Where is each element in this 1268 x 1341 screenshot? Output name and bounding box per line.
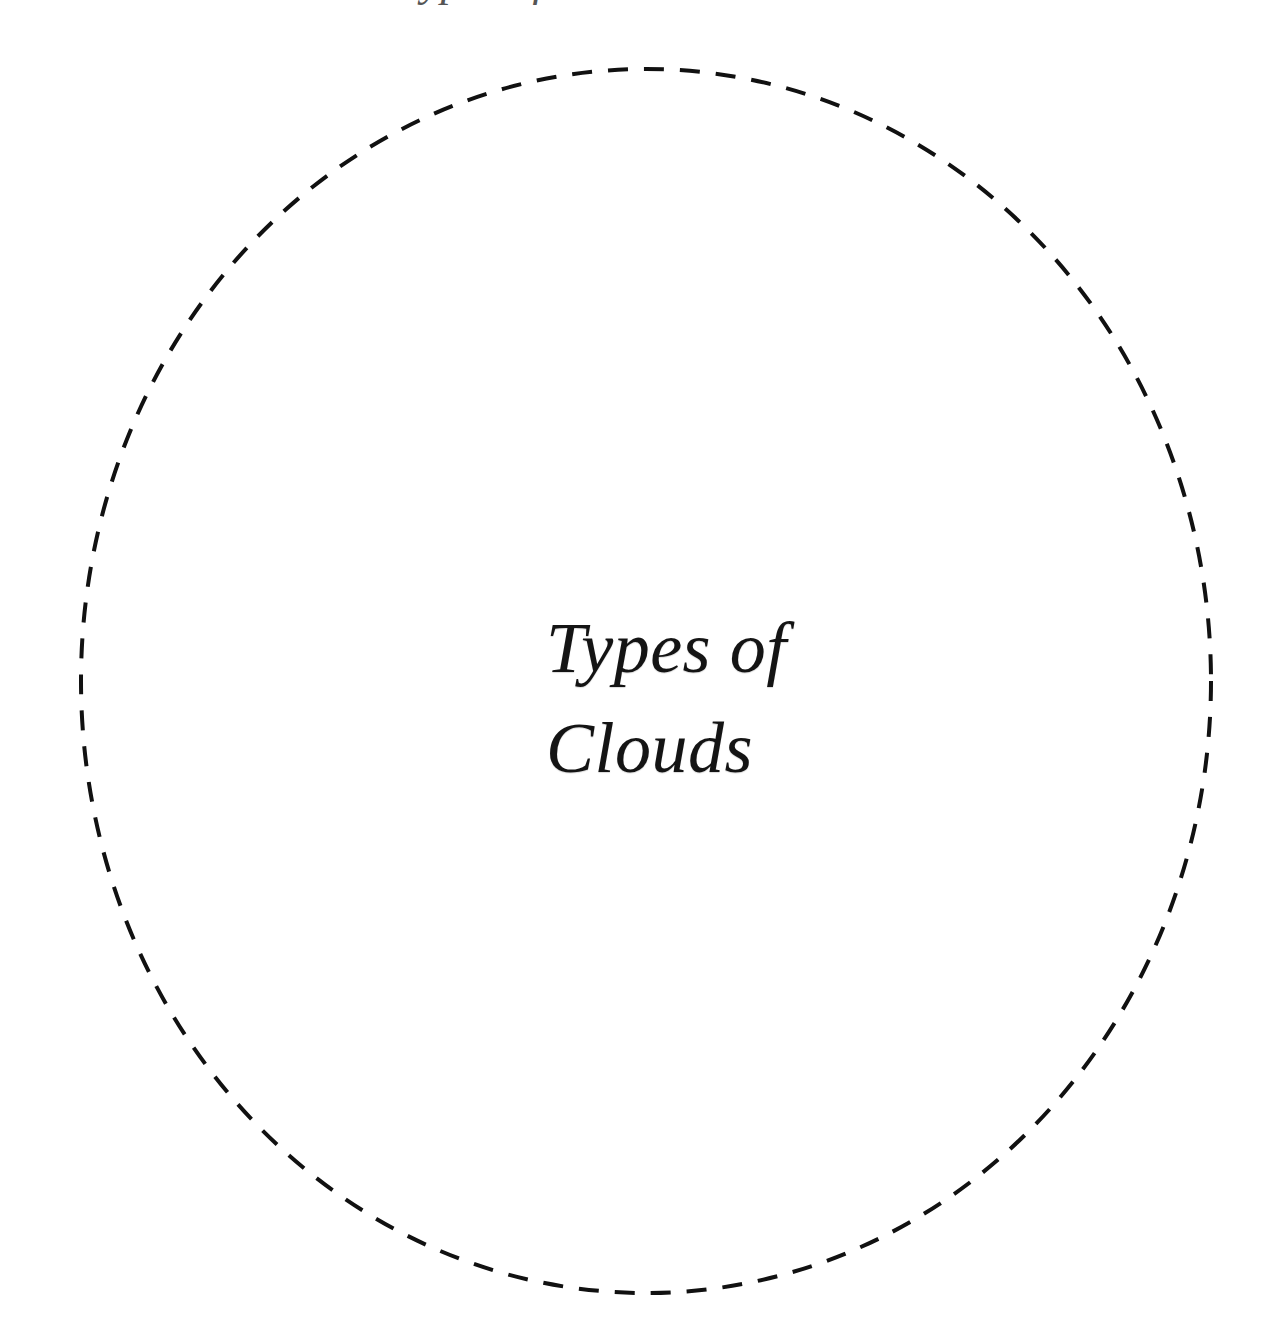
title-line-1: Types of bbox=[546, 598, 787, 698]
center-title: Types of Clouds bbox=[546, 598, 787, 798]
title-line-2: Clouds bbox=[546, 698, 787, 798]
